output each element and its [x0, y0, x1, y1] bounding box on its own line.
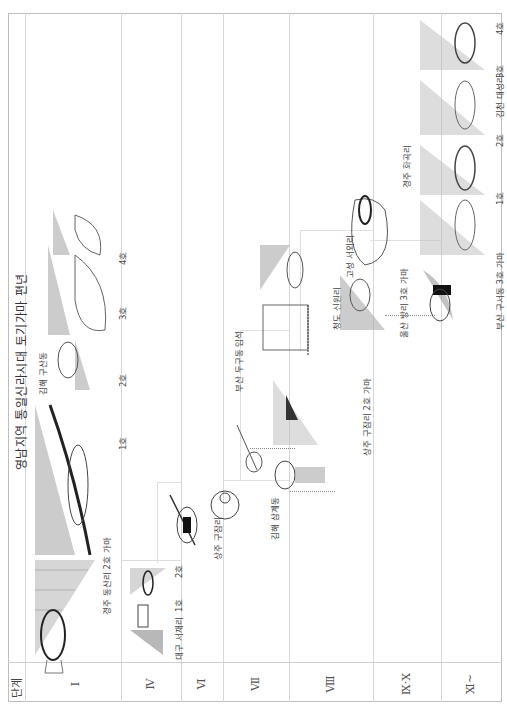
site-label-sangju-gujamri-2: 상주 구잠리 2호 가마 [360, 378, 372, 456]
kiln-label: 2호 [116, 374, 128, 387]
stage-divider [223, 13, 224, 702]
kiln-label: 1호 [172, 599, 184, 612]
stage-label-8: Ⅷ [319, 664, 343, 704]
site-label-busan-dugudong: 부산 두구동 임석 [232, 331, 244, 392]
kiln-drawing-sangju-gujamri-2-section [268, 375, 323, 450]
kiln-drawing-gimcheon-4 [415, 15, 490, 75]
kiln-drawing-gimhae-4 [45, 205, 115, 260]
chart-title: 영남지역 통일신라시대 토기가마 편년 [12, 273, 29, 470]
kiln-drawing-busan-dugudong [232, 420, 272, 480]
kiln-label: 4호 [493, 22, 505, 35]
kiln-drawing-gyeongju-hwagokri-1 [415, 195, 490, 265]
kiln-drawing-daegu-2 [128, 565, 173, 600]
kiln-drawing-daegu-1 [128, 600, 168, 660]
kiln-plan-gyeongju-dongsanri [35, 605, 75, 675]
kiln-drawing-gimcheon-3 [415, 75, 490, 140]
kiln-drawing-gimhae-1 [30, 395, 110, 560]
kiln-label: 2호 [172, 565, 184, 578]
kiln-drawing-gyeongju-hwagokri-2 [415, 140, 490, 200]
stage-row-divider [8, 662, 502, 663]
kiln-drawing-busan-guseodong [418, 265, 458, 325]
kiln-label: 1호 [493, 192, 505, 205]
site-label-gyeongju-hwagokri: 경주 화곡리 [400, 145, 412, 188]
kiln-drawing-sangju-gujamri-2-plan [270, 445, 340, 505]
stage-label-4: Ⅳ [139, 664, 163, 704]
stage-label-11: Ⅺ~ [459, 664, 483, 704]
stage-label-9-10: Ⅸ·Ⅹ [395, 664, 419, 704]
kiln-drawing-gimhae-2 [40, 330, 100, 400]
kiln-label: 3호 [493, 65, 505, 78]
site-label-busan-guseodong: 부산 구서동 3호 가마 [493, 252, 505, 330]
site-label-daegu-seojaeri: 대구 서재리 [172, 617, 184, 660]
kiln-drawing-ulsan-bangri [335, 270, 395, 335]
kiln-drawing-goseong-seoeri [255, 240, 315, 300]
stage-header-label: 단계 [8, 678, 24, 698]
kiln-drawing-cheongdo-sinwonri [258, 300, 318, 360]
kiln-label: 1호 [116, 437, 128, 450]
site-label-gimcheon-daeseongri: 김천 대성리 [493, 75, 505, 118]
kiln-label: 2호 [493, 134, 505, 147]
stage-divider [373, 13, 374, 702]
stage-label-6: Ⅵ [190, 664, 214, 704]
kiln-drawing-ulsan-bangri-plan [335, 190, 405, 270]
kiln-drawing-sangju-gujamri [165, 485, 205, 555]
stage-label-7: Ⅶ [244, 664, 268, 704]
site-label-ulsan-bangri: 울산 방리 3호 가마 [397, 268, 409, 338]
kiln-drawing-gimhae-samgyedong [205, 480, 245, 530]
